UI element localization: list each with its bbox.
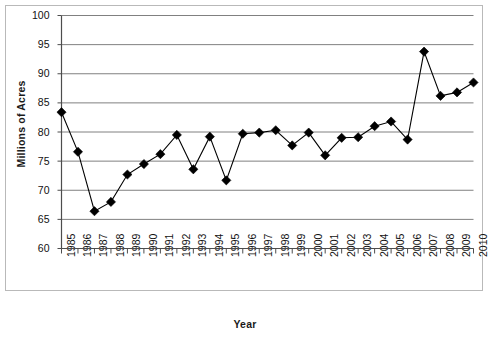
data-point	[205, 132, 214, 141]
data-point	[304, 128, 313, 137]
gridlines	[62, 16, 474, 249]
data-point	[436, 91, 445, 100]
data-point	[419, 47, 428, 56]
data-point	[222, 176, 231, 185]
data-series-line	[62, 52, 474, 212]
data-point	[73, 147, 82, 156]
data-point	[255, 128, 264, 137]
data-point	[370, 122, 379, 131]
data-point	[469, 78, 478, 87]
plot-area	[0, 0, 490, 338]
data-point	[354, 133, 363, 142]
chart-container: Millions of Acres Year 10095908580757065…	[0, 0, 490, 338]
data-point	[452, 88, 461, 97]
data-point	[90, 207, 99, 216]
data-point	[189, 165, 198, 174]
data-point	[238, 129, 247, 138]
data-point	[123, 170, 132, 179]
data-point	[57, 108, 66, 117]
x-axis-ticks	[62, 249, 474, 254]
data-point	[106, 197, 115, 206]
